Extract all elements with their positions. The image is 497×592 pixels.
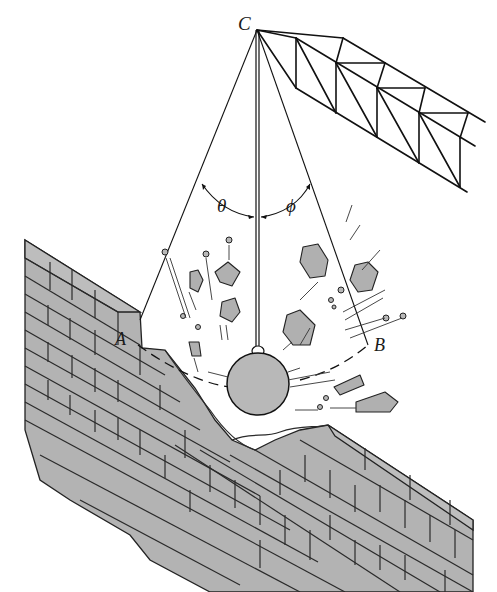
wrecking-ball [227,346,289,415]
brick-wall [25,240,473,592]
label-b: B [374,335,385,355]
label-c: C [238,13,251,34]
wrecking-ball-diagram: C A B θ ϕ [0,0,497,592]
cables [140,30,368,346]
cable-cb [257,30,368,345]
label-a: A [114,329,127,349]
labels: C A B θ ϕ [114,13,385,355]
crane-boom-truss [257,30,485,192]
label-theta: θ [217,195,226,216]
label-phi: ϕ [286,195,296,216]
